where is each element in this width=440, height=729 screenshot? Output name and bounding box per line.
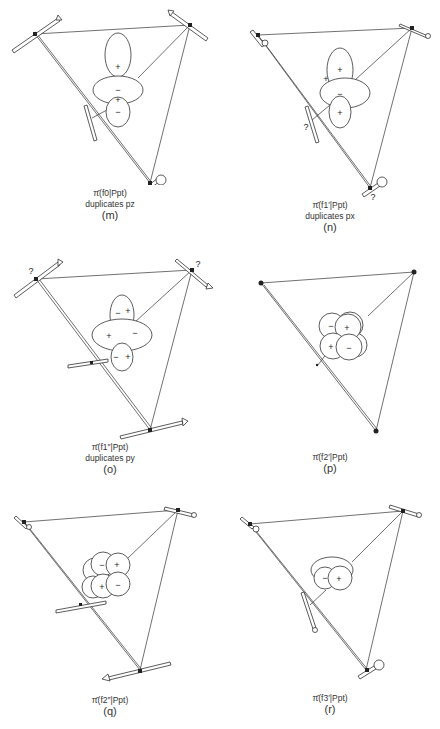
diagram-p: − + + − <box>220 240 440 440</box>
caption-m: π̄(f0|Ppt) duplicates pz (m) <box>0 188 220 221</box>
sign-label: + <box>114 560 119 570</box>
panel-o: − + + − − + ? ? π̄(f1″|Ppt) duplicates p… <box>0 240 220 480</box>
diagram-m: + − + − <box>0 0 220 185</box>
sign-label: + <box>106 331 111 341</box>
sign-label: − <box>328 321 333 331</box>
sign-label: − <box>132 328 137 338</box>
caption-title: π̄(f0|Ppt) <box>0 188 220 199</box>
diagram-q: − + + − <box>0 480 220 685</box>
caption-n: π̄(f1′|Ppt) duplicates px (n) <box>220 200 440 233</box>
sign-label: − <box>115 580 120 590</box>
sign-label: + <box>336 574 341 584</box>
sign-label: + <box>337 108 342 118</box>
caption-o: π̄(f1″|Ppt) duplicates py (o) <box>0 442 220 475</box>
panel-r: − + π̄(f3′|Ppt) (r) <box>220 480 440 729</box>
caption-q: π̄(f2″|Ppt) (q) <box>0 695 220 717</box>
sign-label: + <box>344 323 349 333</box>
panel-label: (q) <box>0 706 220 717</box>
panel-p: − + + − π̄(f2′|Ppt) (p) <box>220 240 440 480</box>
sign-label: + <box>125 306 130 316</box>
caption-r: π̄(f3′|Ppt) (r) <box>220 693 440 715</box>
sign-label: − <box>322 573 327 583</box>
sign-label: + <box>337 65 342 75</box>
sign-label: − <box>113 352 118 362</box>
panel-n: + + − + ? ? π̄(f1′|Ppt) duplicates px (n… <box>220 0 440 240</box>
sign-label: + <box>115 62 120 72</box>
sign-label: + <box>115 95 120 105</box>
panel-m: + − + − π̄(f0|Ppt) duplicates pz (m) <box>0 0 220 240</box>
sign-label: + <box>323 74 328 84</box>
sign-label: − <box>115 308 120 318</box>
sign-label: − <box>337 89 342 99</box>
panel-label: (n) <box>220 222 440 233</box>
diagram-o: − + + − − + ? ? <box>0 240 220 440</box>
panel-label: (m) <box>0 210 220 221</box>
sign-label: + <box>125 352 130 362</box>
panel-label: (r) <box>220 704 440 715</box>
diagram-r: − + <box>220 480 440 685</box>
sign-label: − <box>346 343 351 353</box>
diagram-n: + + − + ? ? <box>220 0 440 200</box>
sign-label: + <box>328 342 333 352</box>
caption-title: π̄(f1′|Ppt) <box>220 200 440 211</box>
question-mark: ? <box>195 259 200 269</box>
sign-label: + <box>99 582 104 592</box>
caption-title: π̄(f1″|Ppt) <box>0 442 220 453</box>
sign-label: − <box>99 560 104 570</box>
sign-label: − <box>115 85 120 95</box>
caption-p: π̄(f2′|Ppt) (p) <box>220 452 440 474</box>
sign-label: − <box>115 107 120 117</box>
question-mark: ? <box>303 122 308 132</box>
panel-q: − + + − π̄(f2″|Ppt) (q) <box>0 480 220 729</box>
panel-label: (p) <box>220 463 440 474</box>
question-mark: ? <box>28 266 33 276</box>
question-mark: ? <box>370 192 375 200</box>
panel-label: (o) <box>0 464 220 475</box>
